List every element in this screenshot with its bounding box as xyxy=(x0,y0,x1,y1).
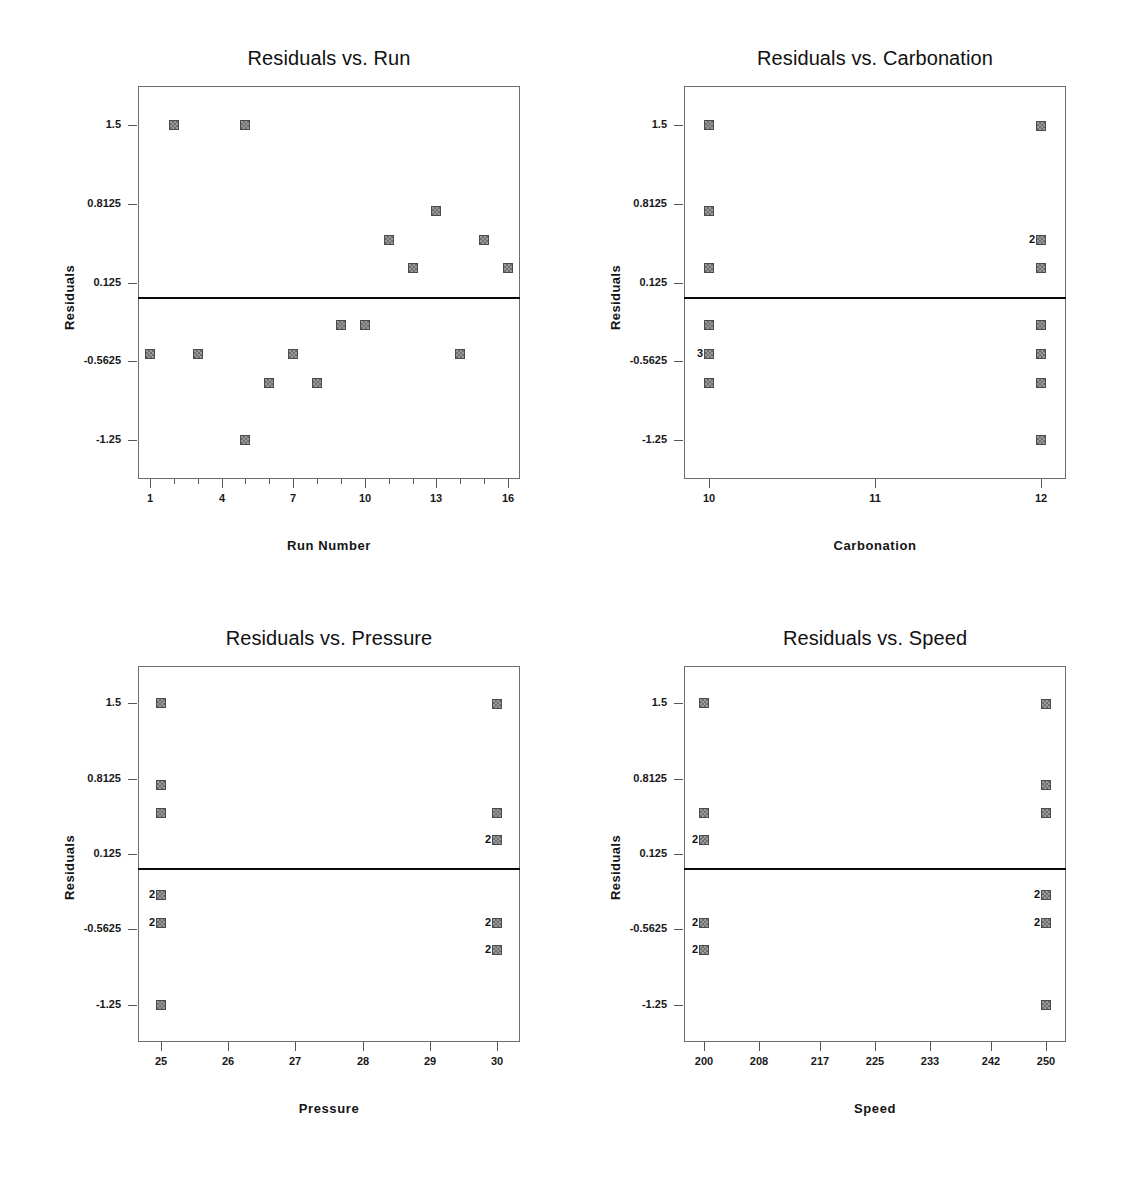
plot-frame xyxy=(684,666,1066,1042)
data-point-count-label: 2 xyxy=(656,916,698,928)
data-point-marker xyxy=(1041,699,1051,709)
x-tick-label: 200 xyxy=(674,1055,734,1067)
x-tick-label: 233 xyxy=(900,1055,960,1067)
x-tick-mark xyxy=(930,1042,931,1051)
x-tick-mark xyxy=(1046,1042,1047,1051)
data-point-marker xyxy=(1041,918,1051,928)
data-point-marker xyxy=(1041,890,1051,900)
x-axis-title: Speed xyxy=(684,1101,1066,1116)
data-point-marker xyxy=(699,918,709,928)
x-tick-label: 208 xyxy=(729,1055,789,1067)
data-point-count-label: 2 xyxy=(998,916,1040,928)
chart-panel-4: Residuals vs. Speed1.50.81250.125-0.5625… xyxy=(0,0,1122,1193)
reference-line-zero xyxy=(684,868,1066,870)
data-point-marker xyxy=(1041,808,1051,818)
y-tick-label: 0.8125 xyxy=(604,772,667,784)
y-tick-label: -1.25 xyxy=(604,998,667,1010)
data-point-marker xyxy=(1041,1000,1051,1010)
x-tick-mark xyxy=(820,1042,821,1051)
x-tick-mark xyxy=(704,1042,705,1051)
y-axis-title: Residuals xyxy=(608,835,623,900)
residual-plots-page: Residuals vs. Run1.50.81250.125-0.5625-1… xyxy=(0,0,1122,1193)
data-point-marker xyxy=(699,808,709,818)
x-tick-label: 217 xyxy=(790,1055,850,1067)
y-tick-mark xyxy=(674,779,683,780)
data-point-marker xyxy=(699,835,709,845)
y-tick-mark xyxy=(674,1005,683,1006)
x-tick-label: 250 xyxy=(1016,1055,1076,1067)
data-point-marker xyxy=(699,945,709,955)
x-tick-mark xyxy=(875,1042,876,1051)
x-tick-mark xyxy=(759,1042,760,1051)
data-point-count-label: 2 xyxy=(656,833,698,845)
data-point-count-label: 2 xyxy=(656,943,698,955)
data-point-count-label: 2 xyxy=(998,888,1040,900)
x-tick-label: 242 xyxy=(961,1055,1021,1067)
data-point-marker xyxy=(1041,780,1051,790)
chart-title: Residuals vs. Speed xyxy=(684,627,1066,650)
y-tick-mark xyxy=(674,929,683,930)
y-tick-mark xyxy=(674,854,683,855)
y-tick-label: 1.5 xyxy=(604,696,667,708)
data-point-marker xyxy=(699,698,709,708)
x-tick-mark xyxy=(991,1042,992,1051)
y-tick-mark xyxy=(674,703,683,704)
x-tick-label: 225 xyxy=(845,1055,905,1067)
